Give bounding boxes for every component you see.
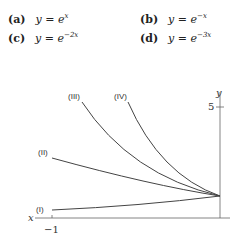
x-axis-label: x <box>28 212 34 223</box>
curve-III <box>82 102 220 196</box>
y-tick-label: 5 <box>208 101 214 112</box>
x-tick-label: −1 <box>44 224 59 235</box>
curve-IV <box>128 102 220 196</box>
curve-II <box>52 158 220 196</box>
curve-label-I: (I) <box>36 205 44 214</box>
curve-label-III: (III) <box>68 92 80 101</box>
curve-I <box>52 196 220 210</box>
y-axis-label: y <box>215 87 222 98</box>
curve-label-II: (II) <box>38 148 48 157</box>
curve-label-IV: (IV) <box>114 92 127 101</box>
exponential-graph: (I) (II) (III) (IV) y x 5 −1 <box>0 0 240 246</box>
